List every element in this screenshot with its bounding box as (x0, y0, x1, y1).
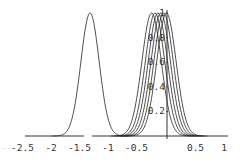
chart-plot: -2.5-2-1.5-1-0.50.51··· 0.20.40.60.81 (0, 0, 240, 165)
x-tick-label: -1.5 (68, 142, 91, 153)
y-tick-label: 0.2 (148, 105, 165, 116)
x-tick-label: 1 (221, 142, 227, 153)
x-tick-label: -1 (102, 142, 114, 153)
axes-group (25, 10, 228, 139)
curves-group (52, 13, 207, 136)
series-line-1 (52, 13, 129, 136)
x-tick-label: 0.5 (187, 142, 204, 153)
axis-ellipsis: ··· (2, 145, 15, 153)
y-tick-label: 0.6 (148, 56, 165, 67)
x-tick-labels: -2.5-2-1.5-1-0.50.51··· (2, 142, 227, 153)
y-tick-label: 0.8 (148, 32, 165, 43)
y-tick-label: 0.4 (148, 81, 165, 92)
y-tick-label: 1 (159, 7, 165, 18)
x-tick-label: -2 (45, 142, 56, 153)
x-tick-label: -0.5 (125, 142, 148, 153)
